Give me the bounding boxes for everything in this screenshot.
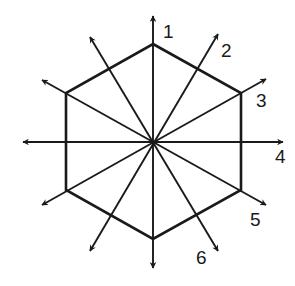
hexagon-symmetry-axes-diagram: 1 2 3 4 5 6 <box>0 0 295 286</box>
axis-label-3: 3 <box>256 90 267 111</box>
axis-label-6: 6 <box>196 247 207 268</box>
symmetry-axes <box>23 16 283 268</box>
axis-label-4: 4 <box>275 146 286 167</box>
axis-label-1: 1 <box>163 21 174 42</box>
axis-label-5: 5 <box>250 209 261 230</box>
axis-label-2: 2 <box>221 40 232 61</box>
